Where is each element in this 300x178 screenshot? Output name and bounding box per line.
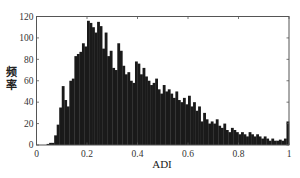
histogram-bar [130, 81, 133, 145]
histogram-bar [271, 139, 274, 145]
histogram-bar [72, 79, 75, 145]
histogram-bar [180, 102, 183, 145]
histogram-bar [122, 66, 125, 145]
histogram-bar [269, 141, 272, 145]
histogram-bar [160, 94, 163, 145]
histogram-bar [110, 51, 113, 145]
histogram-bar [216, 119, 219, 145]
histogram-bar [228, 132, 231, 145]
x-tick-label: 0.4 [132, 149, 144, 159]
histogram-bar [102, 49, 105, 145]
x-tick-label: 0.8 [233, 149, 245, 159]
histogram-bar [153, 83, 156, 145]
x-axis-title: ADI [152, 158, 172, 170]
histogram-bar [100, 26, 103, 145]
histogram-bar [213, 124, 216, 145]
histogram-bar [163, 85, 166, 145]
histogram-bar [223, 124, 226, 145]
histogram-bar [105, 33, 108, 145]
histogram-bar [244, 134, 247, 145]
histogram-bar [274, 141, 277, 145]
y-tick-label: 120 [19, 12, 34, 22]
x-tick-label: 1 [287, 149, 292, 159]
histogram-bar [201, 121, 204, 145]
histogram-bar [259, 136, 262, 145]
histogram-bar [279, 140, 282, 145]
histogram-bar [67, 106, 70, 145]
histogram-bar [57, 125, 60, 145]
x-tick-label: 0.6 [182, 149, 194, 159]
y-tick-label: 20 [24, 119, 34, 129]
histogram-bar [82, 43, 85, 145]
histogram-bar [115, 70, 118, 145]
histogram-bar [231, 128, 234, 145]
y-tick-label: 0 [29, 140, 34, 150]
histogram-bar [132, 83, 135, 145]
histogram-bar [158, 89, 161, 145]
histogram-bar [62, 86, 65, 145]
histogram-bar [183, 98, 186, 145]
histogram-bar [188, 96, 191, 145]
histogram-bar [203, 113, 206, 145]
histogram-bar [155, 79, 158, 145]
histogram-bar [79, 52, 82, 145]
histogram-bar [127, 72, 130, 145]
histogram-bar [165, 91, 168, 145]
histogram-bar [206, 119, 209, 145]
histogram-bar [54, 135, 57, 145]
histogram-bar [284, 139, 287, 145]
histogram-bar [264, 136, 267, 145]
histogram-bar [191, 106, 194, 145]
histogram-bar [261, 139, 264, 145]
x-tick-label: 0 [34, 149, 39, 159]
y-tick-label: 60 [24, 76, 34, 86]
histogram-bar [117, 43, 120, 145]
histogram-bar [254, 136, 257, 145]
histogram-bar [175, 91, 178, 145]
histogram-bar [249, 132, 252, 145]
histogram-bar [112, 68, 115, 145]
histogram-bar [208, 124, 211, 145]
histogram-bar [148, 81, 151, 145]
histogram-bar [138, 64, 141, 145]
histogram-bar [120, 51, 123, 145]
histogram-bar [84, 46, 87, 145]
svg-text:频: 频 [6, 65, 17, 79]
histogram-bar [59, 108, 62, 145]
histogram-bar [168, 89, 171, 145]
histogram-bar [233, 130, 236, 145]
histogram-bar [239, 134, 242, 145]
histogram-bar [218, 126, 221, 145]
histogram-bar [170, 94, 173, 145]
histogram-bar [87, 21, 90, 145]
histogram-bar [281, 141, 284, 145]
histogram-bar [135, 61, 138, 145]
histogram-bar [251, 134, 254, 145]
histogram-bar [64, 100, 67, 145]
histogram-bar [246, 136, 249, 145]
histogram-chart: 00.20.40.60.81 020406080100120 ADI 频 率 [0, 0, 300, 178]
histogram-bar [241, 132, 244, 145]
histogram-bar [211, 121, 214, 145]
histogram-bar [178, 100, 181, 145]
histogram-bar [185, 104, 188, 145]
y-tick-label: 100 [19, 33, 34, 43]
histogram-bar [145, 76, 148, 145]
histogram-bar [125, 74, 128, 145]
histogram-bar [97, 22, 100, 145]
histogram-bar [256, 134, 259, 145]
svg-text:率: 率 [6, 78, 17, 92]
histogram-bar [92, 27, 95, 145]
histogram-bar [196, 111, 199, 145]
histogram-bar [276, 141, 279, 145]
histogram-bar [107, 56, 110, 145]
histogram-bar [77, 54, 80, 145]
histogram-bar [90, 23, 93, 145]
histogram-bar [140, 74, 143, 145]
histogram-bar [143, 68, 146, 145]
histogram-bars [47, 21, 290, 145]
histogram-bar [198, 106, 201, 145]
histogram-bar [173, 98, 176, 145]
histogram-bar [266, 139, 269, 145]
histogram-bar [69, 81, 72, 145]
